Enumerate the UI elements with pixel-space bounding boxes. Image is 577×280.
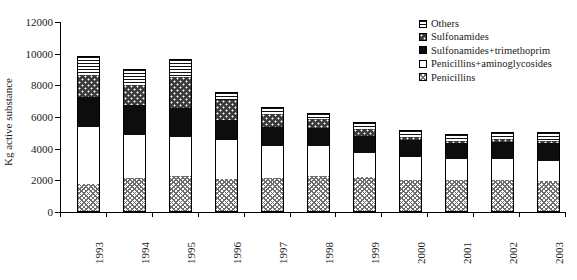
legend-item-penicillins-aminoglycosides[interactable]: Penicillins+aminoglycosides [419, 57, 552, 70]
bar-segment-sulfonamides [123, 85, 146, 106]
y-tick-label: 2000 [31, 174, 53, 186]
bar-segment-sulfonamides [307, 119, 330, 129]
legend-item-label: Sulfonamides+trimethoprim [431, 44, 550, 57]
x-tick-mark [565, 212, 566, 217]
bar-segment-sulfonamides [261, 114, 284, 127]
x-tick-mark [473, 212, 474, 217]
bar-segment-penicillins-aminoglycosides [445, 159, 468, 180]
bar-segment-penicillins [261, 178, 284, 212]
legend-item-penicillins[interactable]: Penicillins [419, 71, 552, 84]
x-axis-labels: 1993199419951996199719981999200020012002… [60, 218, 565, 278]
x-label-1998: 1998 [312, 218, 326, 230]
x-label-2003: 2003 [542, 218, 556, 230]
y-tick-label: 8000 [31, 79, 53, 91]
bar-chart: Kg active substance 02000400060008000100… [0, 0, 577, 280]
bar-1999 [353, 122, 376, 212]
bar-segment-penicillins-aminoglycosides [77, 127, 100, 184]
bar-segment-others [399, 130, 422, 137]
bar-1998 [307, 113, 330, 212]
bar-segment-others [537, 132, 560, 141]
y-axis-title-label: Kg active substance [2, 52, 14, 192]
x-label-2000: 2000 [404, 218, 418, 230]
bar-segment-penicillins [77, 184, 100, 212]
bar-1996 [215, 92, 238, 212]
x-tick-mark [152, 212, 153, 217]
legend-item-sulfonamides-trimethoprim[interactable]: Sulfonamides+trimethoprim [419, 44, 552, 57]
bar-segment-penicillins [169, 176, 192, 212]
x-label-2002: 2002 [496, 218, 510, 230]
bar-segment-others [215, 92, 238, 101]
bar-segment-others [169, 59, 192, 77]
bar-segment-others [123, 69, 146, 85]
legend-item-label: Penicillins+aminoglycosides [431, 57, 552, 70]
bar-segment-sulfonamides [77, 75, 100, 97]
bar-segment-others [77, 56, 100, 75]
x-label-1994: 1994 [128, 218, 142, 230]
dotted-dark-swatch [419, 33, 427, 41]
x-label-2001: 2001 [450, 218, 464, 230]
bar-segment-penicillins-aminoglycosides [123, 135, 146, 178]
bar-segment-sulfonamides-trimethoprim [169, 108, 192, 137]
bar-segment-penicillins [215, 179, 238, 212]
bar-segment-sulfonamides-trimethoprim [353, 136, 376, 153]
bar-segment-penicillins-aminoglycosides [491, 159, 514, 180]
bar-segment-penicillins-aminoglycosides [215, 140, 238, 179]
horizontal-lines-swatch [419, 20, 427, 28]
x-tick-mark [244, 212, 245, 217]
bar-segment-sulfonamides [215, 100, 238, 120]
bar-segment-others [445, 134, 468, 141]
bar-segment-sulfonamides [169, 77, 192, 107]
bar-segment-penicillins [353, 177, 376, 212]
x-label-1999: 1999 [358, 218, 372, 230]
bar-1994 [123, 69, 146, 212]
bar-segment-penicillins [445, 180, 468, 212]
bar-segment-penicillins [399, 180, 422, 212]
cross-hatch-swatch [419, 73, 427, 81]
bar-segment-penicillins [537, 181, 560, 212]
y-tick-label: 6000 [31, 111, 53, 123]
bar-segment-sulfonamides [353, 129, 376, 136]
legend-item-label: Penicillins [431, 71, 475, 84]
bar-segment-sulfonamides-trimethoprim [537, 143, 560, 161]
y-tick-label: 4000 [31, 143, 53, 155]
x-tick-mark [290, 212, 291, 217]
bar-segment-penicillins [307, 176, 330, 212]
chart-legend: OthersSulfonamidesSulfonamides+trimethop… [419, 17, 552, 84]
x-label-1997: 1997 [266, 218, 280, 230]
legend-item-sulfonamides[interactable]: Sulfonamides [419, 30, 552, 43]
solid-black-swatch [419, 46, 427, 54]
bar-segment-sulfonamides-trimethoprim [445, 143, 468, 159]
x-tick-mark [335, 212, 336, 217]
bar-segment-penicillins-aminoglycosides [399, 157, 422, 180]
bar-2003 [537, 132, 560, 212]
x-label-1993: 1993 [82, 218, 96, 230]
x-label-1995: 1995 [174, 218, 188, 230]
bar-segment-penicillins-aminoglycosides [537, 161, 560, 181]
bar-segment-penicillins-aminoglycosides [353, 153, 376, 177]
y-tick-label: 12000 [26, 16, 54, 28]
x-tick-mark [381, 212, 382, 217]
bar-2000 [399, 130, 422, 212]
bar-segment-sulfonamides-trimethoprim [491, 142, 514, 159]
y-tick-label: 10000 [26, 48, 54, 60]
bar-segment-penicillins-aminoglycosides [261, 146, 284, 178]
legend-item-others[interactable]: Others [419, 17, 552, 30]
x-tick-mark [60, 212, 61, 217]
bar-segment-others [491, 132, 514, 139]
bar-segment-penicillins-aminoglycosides [169, 137, 192, 177]
bar-segment-others [261, 107, 284, 114]
bar-2002 [491, 132, 514, 212]
bar-segment-sulfonamides-trimethoprim [215, 120, 238, 140]
bar-segment-penicillins [123, 178, 146, 212]
x-axis-line [60, 212, 565, 213]
bar-1995 [169, 59, 192, 212]
bar-1997 [261, 107, 284, 212]
y-axis-title: Kg active substance [2, 0, 14, 52]
y-tick-label: 0 [48, 206, 54, 218]
legend-item-label: Sulfonamides [431, 30, 489, 43]
white-swatch [419, 60, 427, 68]
bar-2001 [445, 134, 468, 212]
bar-segment-sulfonamides-trimethoprim [307, 128, 330, 146]
bar-segment-penicillins [491, 180, 514, 212]
bar-segment-sulfonamides-trimethoprim [77, 97, 100, 127]
